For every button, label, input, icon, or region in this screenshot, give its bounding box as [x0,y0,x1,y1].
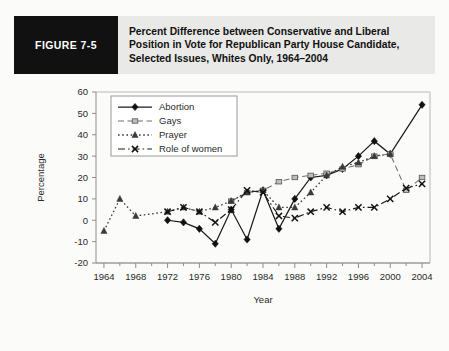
legend: AbortionGaysPrayerRole of women [111,96,237,156]
x-tick-label: 1996 [348,271,369,282]
data-point [244,236,250,243]
data-point [101,227,107,233]
data-point [308,173,314,177]
series-line [168,184,422,222]
x-tick-label: 1968 [125,271,146,282]
x-tick-label: 2000 [380,271,401,282]
data-point [419,175,425,179]
figure-container: FIGURE 7-5 Percent Difference between Co… [0,0,449,351]
x-tick-label: 1984 [252,271,273,282]
legend-marker-sample [132,119,138,123]
y-axis-title: Percentage [35,153,46,202]
x-tick-label: 2004 [411,271,432,282]
figure-title: Percent Difference between Conservative … [118,16,435,74]
data-point [292,215,298,221]
data-point [180,219,186,226]
x-tick-label: 1992 [316,271,337,282]
y-tick-label: 50 [77,108,88,119]
y-tick-label: 60 [77,86,88,97]
data-point [117,195,123,201]
data-point [339,163,345,169]
figure-title-line-3: Selected Issues, Whites Only, 1964–2004 [129,52,427,65]
data-point [164,217,170,224]
data-point [276,213,282,219]
chart-area: -20-100102030405060196419681972197619801… [14,80,435,338]
data-point [387,196,393,202]
y-tick-label: 0 [83,215,88,226]
y-tick-label: -20 [74,257,88,268]
y-tick-label: 30 [77,151,88,162]
legend-label: Abortion [159,101,194,112]
y-tick-label: 40 [77,129,88,140]
figure-header-band: FIGURE 7-5 Percent Difference between Co… [14,16,435,74]
series-role-of-women [164,181,425,226]
x-tick-label: 1988 [284,271,305,282]
line-chart: -20-100102030405060196419681972197619801… [14,80,435,338]
y-tick-label: 20 [77,172,88,183]
legend-label: Role of women [159,143,222,154]
legend-label: Prayer [159,129,187,140]
data-point [276,225,282,232]
y-tick-label: 10 [77,193,88,204]
data-point [276,204,282,210]
data-point [292,204,298,210]
data-point [212,219,218,225]
data-point [355,159,361,165]
data-point [276,180,282,184]
x-tick-label: 1972 [157,271,178,282]
figure-number-tag: FIGURE 7-5 [14,16,118,74]
x-tick-label: 1976 [189,271,210,282]
x-tick-label: 1980 [221,271,242,282]
figure-title-line-1: Percent Difference between Conservative … [129,25,427,38]
x-tick-label: 1964 [93,271,114,282]
x-axis-title: Year [253,294,272,305]
figure-title-line-2: Position in Vote for Republican Party Ho… [129,38,427,51]
legend-label: Gays [159,115,181,126]
y-tick-label: -10 [74,236,88,247]
data-point [292,175,298,179]
